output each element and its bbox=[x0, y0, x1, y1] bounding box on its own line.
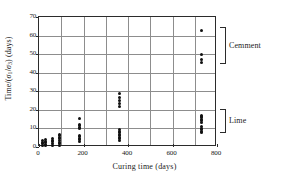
data-point bbox=[200, 114, 203, 117]
gridline-horizontal bbox=[39, 110, 215, 111]
data-point bbox=[200, 29, 203, 32]
group-bracket bbox=[220, 109, 226, 133]
plot-area bbox=[38, 16, 216, 146]
gridline-horizontal bbox=[39, 54, 215, 55]
x-tick-mark bbox=[84, 144, 85, 147]
x-tick-label: 0 bbox=[18, 150, 58, 157]
data-point bbox=[118, 92, 121, 95]
group-label: Lime bbox=[229, 117, 246, 125]
data-point bbox=[118, 102, 121, 105]
x-tick-label: 600 bbox=[152, 150, 192, 157]
x-axis-label: Curing time (days) bbox=[0, 162, 289, 171]
chart-figure: 010203040506070 0200400600800 CemmentLim… bbox=[0, 0, 289, 182]
y-axis-label: Time/(σ1/σ3) (days) bbox=[4, 9, 13, 129]
y-tick-label: 0 bbox=[0, 143, 36, 150]
x-tick-mark bbox=[39, 144, 40, 147]
data-point bbox=[200, 53, 203, 56]
data-point bbox=[78, 134, 81, 137]
data-point bbox=[78, 117, 81, 120]
y-tick-mark bbox=[36, 73, 39, 74]
gridline-horizontal bbox=[39, 73, 215, 74]
y-tick-mark bbox=[36, 110, 39, 111]
y-tick-mark bbox=[36, 36, 39, 37]
gridline-horizontal bbox=[39, 91, 215, 92]
y-tick-mark bbox=[36, 128, 39, 129]
data-point bbox=[118, 105, 121, 108]
data-point bbox=[58, 133, 61, 136]
y-tick-mark bbox=[36, 147, 39, 148]
x-tick-mark bbox=[173, 144, 174, 147]
x-tick-label: 200 bbox=[63, 150, 103, 157]
y-tick-mark bbox=[36, 17, 39, 18]
x-tick-label: 800 bbox=[196, 150, 236, 157]
group-label: Cemment bbox=[229, 42, 261, 50]
gridline-horizontal bbox=[39, 128, 215, 129]
y-tick-mark bbox=[36, 91, 39, 92]
data-point bbox=[118, 99, 121, 102]
data-point bbox=[118, 96, 121, 99]
data-point bbox=[44, 138, 47, 141]
y-tick-mark bbox=[36, 54, 39, 55]
data-point bbox=[200, 61, 203, 64]
x-tick-mark bbox=[217, 144, 218, 147]
x-tick-mark bbox=[128, 144, 129, 147]
x-tick-label: 400 bbox=[107, 150, 147, 157]
data-point bbox=[78, 123, 81, 126]
gridline-horizontal bbox=[39, 36, 215, 37]
group-bracket bbox=[220, 27, 226, 64]
